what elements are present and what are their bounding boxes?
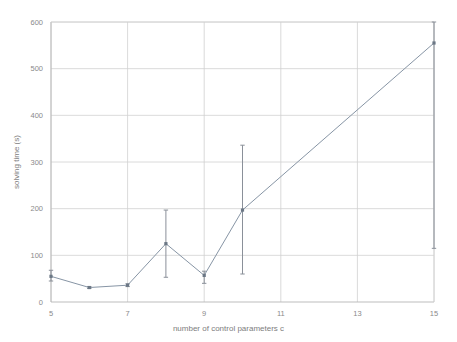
x-tick-label: 7	[126, 309, 130, 318]
x-tick-label: 9	[202, 309, 206, 318]
data-point-marker	[432, 41, 435, 44]
chart-background	[0, 0, 457, 342]
x-tick-label: 11	[277, 309, 285, 318]
y-tick-label: 200	[30, 204, 43, 213]
chart-container: 0100200300400500600 579111315 number of …	[0, 0, 457, 342]
x-axis-title: number of control parameters c	[173, 324, 284, 333]
y-tick-label: 0	[39, 298, 43, 307]
data-point-marker	[241, 208, 244, 211]
x-tick-label: 13	[353, 309, 361, 318]
y-tick-label: 100	[30, 251, 43, 260]
data-point-marker	[203, 274, 206, 277]
data-point-marker	[88, 286, 91, 289]
y-tick-label: 400	[30, 111, 43, 120]
y-tick-label: 300	[30, 158, 43, 167]
x-tick-label: 5	[49, 309, 53, 318]
y-tick-label: 600	[30, 18, 43, 27]
x-tick-label: 15	[430, 309, 438, 318]
line-chart-with-error-bars: 0100200300400500600 579111315 number of …	[0, 0, 457, 342]
data-point-marker	[164, 242, 167, 245]
y-axis-title: solving time (s)	[12, 135, 21, 189]
y-tick-label: 500	[30, 64, 43, 73]
data-point-marker	[49, 275, 52, 278]
data-point-marker	[126, 284, 129, 287]
